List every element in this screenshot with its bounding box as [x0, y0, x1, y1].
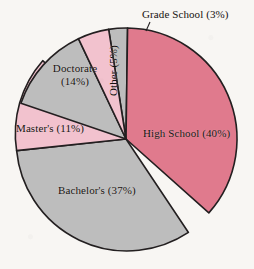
slice-label-bachelors: Bachelor's (37%) — [58, 184, 136, 197]
pie-chart-figure: Grade School (3%) Other (5%) Doctorate (… — [0, 0, 254, 269]
slice-label-high-school: High School (40%) — [143, 127, 230, 140]
slice-label-doctorate-line1: Doctorate — [53, 62, 97, 74]
slice-label-doctorate-line2: (14%) — [61, 75, 89, 87]
slice-label-grade-school: Grade School (3%) — [142, 8, 229, 21]
slice-label-doctorate: Doctorate (14%) — [40, 62, 110, 87]
slice-label-masters: Master's (11%) — [16, 122, 84, 135]
